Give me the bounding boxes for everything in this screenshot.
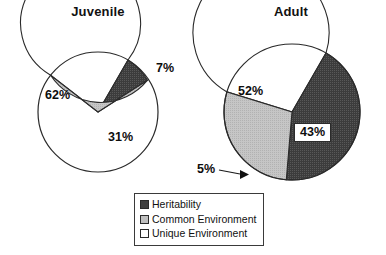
legend-label-heritability: Heritability — [152, 199, 201, 210]
legend-item-heritability: Heritability — [140, 198, 256, 212]
pie-adult-label-heritability: 43% — [294, 123, 331, 142]
legend-swatch-heritability-icon — [140, 200, 149, 209]
pie-adult-label-common-environment: 5% — [197, 163, 215, 176]
legend-label-common-environment: Common Environment — [152, 214, 256, 225]
panel-adult-title: Adult — [196, 4, 386, 19]
pie-juvenile-label-common-environment: 31% — [103, 128, 138, 147]
pie-adult-label-unique-environment: 52% — [238, 85, 263, 98]
callout-leader-line — [219, 170, 240, 174]
legend-swatch-common-environment-icon — [140, 215, 149, 224]
legend-swatch-unique-environment-icon — [140, 229, 149, 238]
legend-item-common-environment: Common Environment — [140, 212, 256, 226]
legend: Heritability Common Environment Unique E… — [134, 193, 264, 246]
figure-root: Juvenile 62% 7% 31% Adult 52% 43% 5% Her… — [0, 0, 386, 255]
pie-adult — [193, 0, 360, 180]
callout-adult-common-environment — [219, 170, 249, 179]
pie-juvenile-label-unique-environment: 62% — [45, 89, 70, 102]
legend-item-unique-environment: Unique Environment — [140, 227, 256, 241]
callout-arrowhead-icon — [240, 170, 249, 179]
pie-juvenile-label-heritability: 7% — [156, 62, 174, 75]
legend-label-unique-environment: Unique Environment — [152, 228, 247, 239]
panel-juvenile-title: Juvenile — [0, 4, 196, 19]
